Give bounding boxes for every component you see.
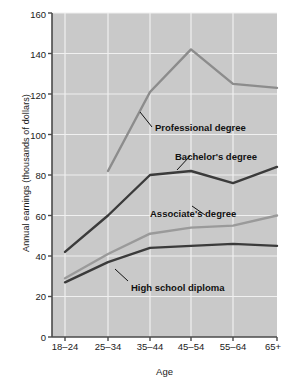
x-tick-65-plus: 65+ <box>265 341 281 352</box>
chart-container: Annual earnings (thousands of dollars) 0… <box>0 0 296 383</box>
x-tick-55-64: 55–64 <box>220 341 246 352</box>
series-annotation-high-school-diploma: High school diploma <box>131 282 224 293</box>
x-tick-25-34: 25–34 <box>95 341 121 352</box>
x-axis-label: Age <box>52 366 277 377</box>
series-annotation-associates-degree: Associate's degree <box>150 208 236 219</box>
x-tick-35-44: 35–44 <box>137 341 163 352</box>
x-tick-18-24: 18–24 <box>52 341 78 352</box>
series-annotation-professional-degree: Professional degree <box>155 122 246 133</box>
series-annotation-bachelors-degree: Bachelor's degree <box>175 151 257 162</box>
x-tick-45-54: 45–54 <box>178 341 204 352</box>
plot-area <box>0 0 296 383</box>
